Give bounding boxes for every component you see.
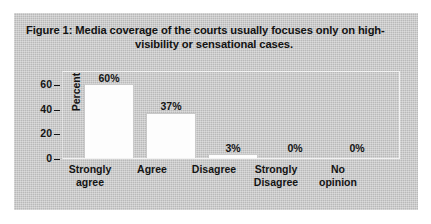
y-tickmark-20	[54, 134, 60, 135]
figure-title: Figure 1: Media coverage of the courts u…	[26, 24, 402, 51]
bar-value-agree: 37%	[137, 100, 205, 112]
x-label-strongly-agree-line-2: agree	[53, 176, 127, 189]
y-tick-label-40: 40	[40, 103, 52, 115]
bar-group-strongly-disagree: 0%	[267, 72, 323, 158]
y-tick-label-20: 20	[40, 127, 52, 139]
y-tickmark-60	[54, 85, 60, 86]
y-tick-60: 60	[40, 78, 60, 90]
bar-group-agree: 37%	[143, 72, 199, 158]
bar-group-no-opinion: 0%	[329, 72, 385, 158]
y-tickmark-0	[54, 159, 60, 160]
bar-group-disagree: 3%	[205, 72, 261, 158]
figure-root: Figure 1: Media coverage of the courts u…	[0, 0, 431, 224]
bar-value-strongly-agree: 60%	[75, 72, 143, 84]
bars-layer: 60% 37% 3% 0% 0%	[63, 72, 399, 158]
plot-area: Percent 0 20 40 60 60% 37% 3%	[62, 71, 400, 159]
bar-disagree[interactable]	[208, 154, 258, 158]
y-tick-20: 20	[40, 127, 60, 139]
y-tickmark-40	[54, 110, 60, 111]
x-label-no-opinion-line-2: opinion	[301, 176, 375, 189]
figure-title-line-1: Figure 1: Media coverage of the courts u…	[26, 24, 402, 38]
y-tick-label-60: 60	[40, 78, 52, 90]
y-tick-40: 40	[40, 103, 60, 115]
bar-value-disagree: 3%	[199, 142, 267, 154]
bar-strongly-agree[interactable]	[84, 84, 134, 158]
bar-group-strongly-agree: 60%	[81, 72, 137, 158]
y-tick-label-0: 0	[46, 152, 52, 164]
bar-value-no-opinion: 0%	[323, 142, 391, 154]
figure-panel: Figure 1: Media coverage of the courts u…	[14, 13, 418, 210]
bar-agree[interactable]	[146, 113, 196, 158]
x-label-no-opinion: No opinion	[301, 163, 375, 189]
figure-title-line-2: visibility or sensational cases.	[26, 38, 402, 52]
bar-value-strongly-disagree: 0%	[261, 142, 329, 154]
x-label-no-opinion-line-1: No	[301, 163, 375, 176]
